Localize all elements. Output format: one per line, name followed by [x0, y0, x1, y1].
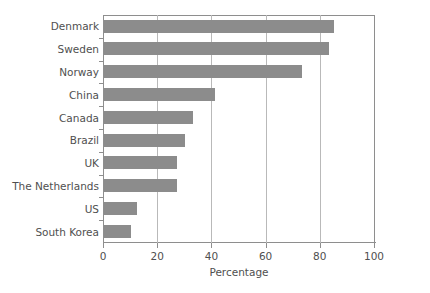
category-tick — [99, 129, 103, 130]
bar — [104, 42, 329, 55]
bar-row — [104, 61, 375, 84]
bar-row — [104, 175, 375, 198]
category-label: Norway — [59, 66, 99, 78]
category-label: US — [85, 203, 99, 215]
bar — [104, 179, 177, 192]
category-label: Sweden — [58, 43, 100, 55]
value-tick — [266, 243, 267, 248]
category-label: Denmark — [51, 20, 99, 32]
plot-area — [103, 15, 375, 243]
value-tick-label: 60 — [246, 250, 286, 262]
category-tick — [99, 175, 103, 176]
category-label: The Netherlands — [12, 180, 99, 192]
bar — [104, 225, 131, 238]
value-tick-label: 20 — [137, 250, 177, 262]
bar — [104, 202, 137, 215]
value-tick — [374, 243, 375, 248]
category-label: Canada — [59, 112, 99, 124]
bar-row — [104, 129, 375, 152]
bar-row — [104, 83, 375, 106]
bar-row — [104, 15, 375, 38]
bar-row — [104, 220, 375, 243]
category-label: South Korea — [35, 226, 99, 238]
bar-row — [104, 38, 375, 61]
value-tick-label: 40 — [191, 250, 231, 262]
bar — [104, 111, 193, 124]
bar — [104, 134, 185, 147]
value-tick — [103, 243, 104, 248]
bar-row — [104, 152, 375, 175]
bar-row — [104, 106, 375, 129]
value-tick — [157, 243, 158, 248]
category-label: UK — [84, 157, 99, 169]
value-tick — [211, 243, 212, 248]
value-tick-label: 0 — [83, 250, 123, 262]
category-label: Brazil — [70, 134, 99, 146]
category-label: China — [69, 89, 99, 101]
bar-row — [104, 197, 375, 220]
category-tick — [99, 61, 103, 62]
category-tick — [99, 106, 103, 107]
category-tick — [99, 83, 103, 84]
category-tick — [99, 220, 103, 221]
bar — [104, 88, 215, 101]
bar-chart: DenmarkSwedenNorwayChinaCanadaBrazilUKTh… — [0, 0, 430, 293]
category-tick — [99, 38, 103, 39]
bar — [104, 65, 302, 78]
bar — [104, 20, 334, 33]
value-tick — [320, 243, 321, 248]
value-tick-label: 100 — [354, 250, 394, 262]
category-tick — [99, 197, 103, 198]
value-tick-label: 80 — [300, 250, 340, 262]
category-tick — [99, 152, 103, 153]
x-axis-title: Percentage — [119, 266, 359, 278]
bar — [104, 156, 177, 169]
